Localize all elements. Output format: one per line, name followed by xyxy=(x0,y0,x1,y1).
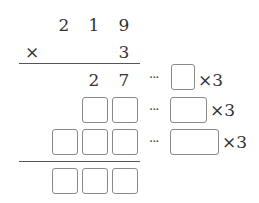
answer-box-row3-factor[interactable] xyxy=(170,129,219,155)
answer-box-row1-factor[interactable] xyxy=(171,64,195,90)
result-box-tens[interactable] xyxy=(82,168,108,194)
digit-ones: 9 xyxy=(116,15,132,35)
answer-box-row3-hundreds[interactable] xyxy=(52,129,78,155)
answer-box-row2-tens[interactable] xyxy=(82,97,108,123)
ellipsis: ··· xyxy=(149,68,158,88)
divider-line-top xyxy=(19,63,140,64)
times-three-label: ×3 xyxy=(210,100,235,120)
divider-line-bottom xyxy=(19,161,140,162)
answer-box-row3-tens[interactable] xyxy=(82,129,108,155)
times-three-label: ×3 xyxy=(222,132,247,152)
times-sign: × xyxy=(24,42,40,62)
result-box-ones[interactable] xyxy=(112,168,138,194)
ellipsis: ··· xyxy=(149,132,158,152)
multiplier-digit: 3 xyxy=(116,42,132,62)
result-box-hundreds[interactable] xyxy=(52,168,78,194)
answer-box-row3-ones[interactable] xyxy=(112,129,138,155)
digit-tens: 1 xyxy=(86,15,102,35)
partial1-ones: 7 xyxy=(116,70,132,90)
partial1-tens: 2 xyxy=(86,70,102,90)
ellipsis: ··· xyxy=(149,100,158,120)
times-three-label: ×3 xyxy=(198,70,223,90)
answer-box-row2-ones[interactable] xyxy=(112,97,138,123)
digit-hundreds: 2 xyxy=(56,15,72,35)
answer-box-row2-factor[interactable] xyxy=(170,97,207,123)
